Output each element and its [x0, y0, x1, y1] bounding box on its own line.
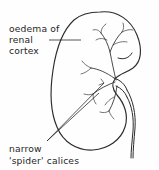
label-cortex-line3: cortex: [9, 45, 39, 56]
label-cortex-line1: oedema of: [9, 23, 60, 34]
label-cortex-line2: renal: [9, 34, 33, 45]
ureter: [127, 90, 135, 158]
label-calices: narrow 'spider' calices: [9, 143, 79, 166]
label-calices-line1: narrow: [9, 143, 42, 154]
label-calices-line2: 'spider' calices: [9, 155, 79, 166]
calyceal-tree-mid: [81, 61, 115, 104]
leader-line-calices: [47, 79, 104, 141]
kidney-outline: [51, 12, 140, 150]
label-cortex: oedema of renal cortex: [9, 23, 60, 56]
kidney-diagram-canvas: oedema of renal cortex narrow 'spider' c…: [0, 0, 159, 170]
renal-hilum: [118, 53, 132, 59]
kidney-diagram-figure: oedema of renal cortex narrow 'spider' c…: [0, 0, 159, 170]
